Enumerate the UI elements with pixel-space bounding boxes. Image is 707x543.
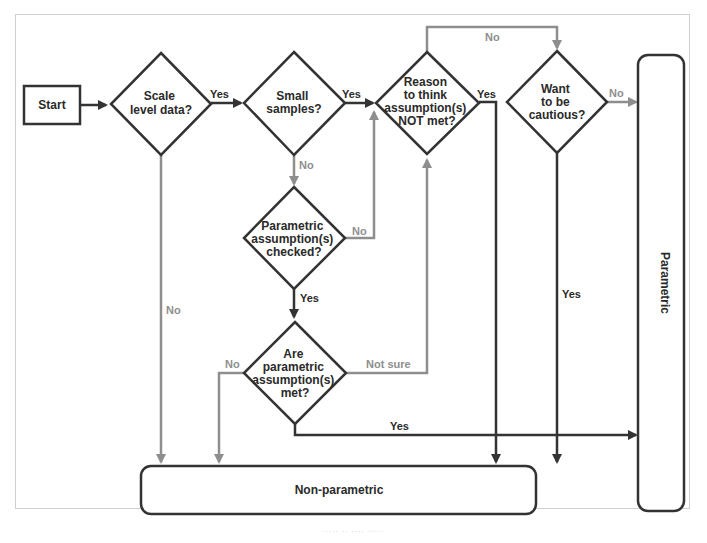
edge-met-no	[219, 373, 244, 462]
label-reason-no: No	[485, 31, 500, 43]
parametric-label: Parametric	[658, 252, 672, 314]
edge-checked-no	[345, 112, 374, 238]
figure-caption: ····· ·· ···· ·····	[0, 528, 707, 535]
edge-reason-yes	[479, 102, 496, 462]
start-label: Start	[38, 98, 65, 112]
label-met-yes: Yes	[390, 420, 409, 432]
label-cautious-yes: Yes	[562, 288, 581, 300]
label-cautious-no: No	[609, 87, 624, 99]
flowchart: Start Scale level data? Small samples? R…	[0, 0, 707, 543]
label-scale-no: No	[166, 304, 181, 316]
label-checked-yes: Yes	[300, 292, 319, 304]
edge-met-notsure	[346, 160, 427, 373]
label-met-notsure: Not sure	[366, 358, 411, 370]
label-scale-yes: Yes	[210, 88, 229, 100]
label-reason-yes: Yes	[477, 88, 496, 100]
edge-met-yes	[295, 422, 636, 435]
label-small-yes: Yes	[342, 88, 361, 100]
label-checked-no: No	[352, 225, 367, 237]
label-small-no: No	[299, 159, 314, 171]
label-met-no: No	[225, 358, 240, 370]
non-parametric-label: Non-parametric	[295, 483, 384, 497]
